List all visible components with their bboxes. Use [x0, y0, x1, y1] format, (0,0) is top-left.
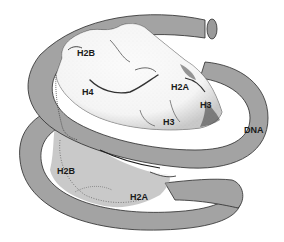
nucleosome-diagram — [0, 0, 284, 242]
label-dna: DNA — [244, 126, 264, 135]
label-h4: H4 — [82, 88, 94, 97]
label-h2a-top: H2A — [171, 83, 189, 92]
label-h2b-top: H2B — [77, 49, 95, 58]
label-h3-right: H3 — [200, 101, 212, 110]
label-h2a-bottom: H2A — [130, 193, 148, 202]
label-h3-center: H3 — [163, 118, 175, 127]
histone-octamer-core — [56, 24, 222, 130]
label-h2b-bottom: H2B — [57, 167, 75, 176]
